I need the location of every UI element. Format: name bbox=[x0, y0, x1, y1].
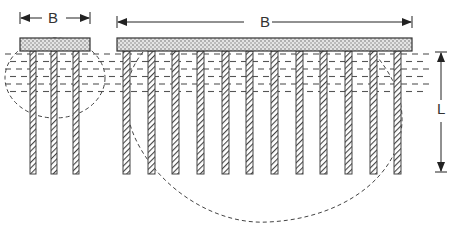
large-group-pile bbox=[271, 51, 278, 174]
large-group-pile bbox=[148, 51, 155, 174]
large-group-pile bbox=[345, 51, 352, 174]
pile-group-diagram: B B L bbox=[0, 0, 458, 233]
large-pile-cap bbox=[117, 38, 412, 51]
large-group-pile bbox=[246, 51, 253, 174]
diagram-canvas: B B L bbox=[0, 0, 458, 233]
large-group-pile bbox=[172, 51, 179, 174]
large-group-pile bbox=[123, 51, 130, 174]
large-group-pile bbox=[394, 51, 401, 174]
large-group-pile bbox=[222, 51, 229, 174]
large-group-pile bbox=[197, 51, 204, 174]
pile-length-label: L bbox=[437, 100, 445, 117]
small-group-pile bbox=[30, 51, 36, 174]
small-pile-cap bbox=[20, 38, 90, 51]
large-group-pile bbox=[296, 51, 303, 174]
soft-soil-layer bbox=[5, 54, 429, 92]
pile-caps bbox=[20, 38, 412, 51]
small-group-width-label: B bbox=[48, 9, 58, 26]
large-group-width-label: B bbox=[260, 13, 270, 30]
large-group-stress-bulb bbox=[126, 52, 402, 222]
small-group-pile bbox=[51, 51, 57, 174]
large-group-pile bbox=[320, 51, 327, 174]
small-group-pile bbox=[73, 51, 79, 174]
large-group-pile bbox=[370, 51, 377, 174]
